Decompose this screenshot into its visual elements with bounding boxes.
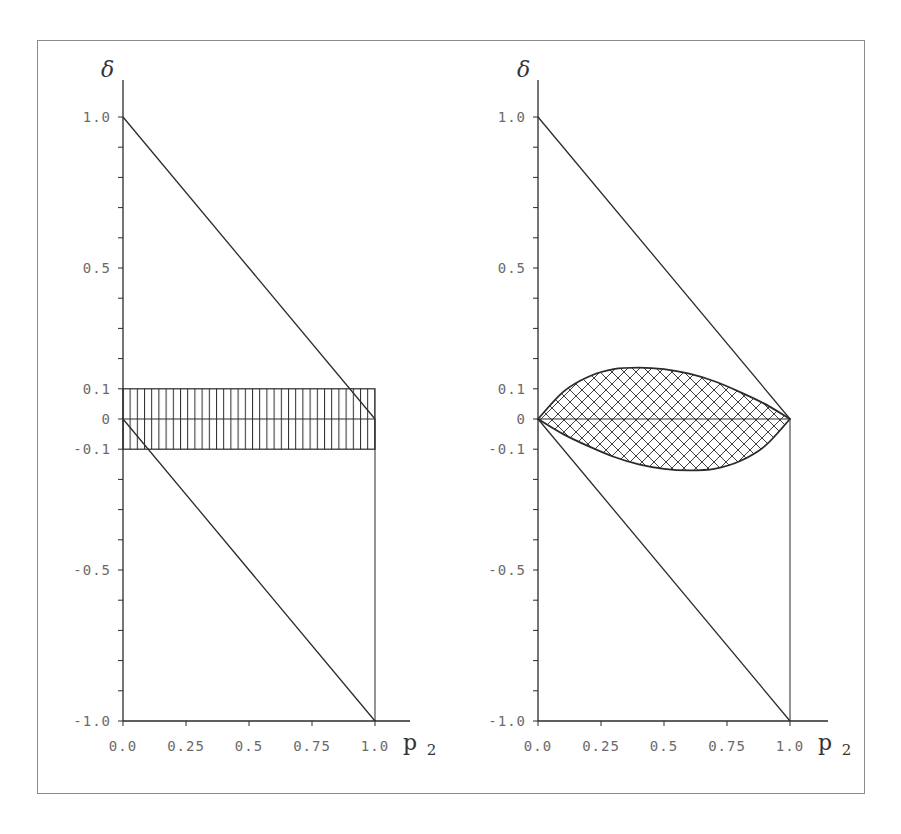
upper-bound-line [123, 117, 375, 419]
y-tick-label: 0 [517, 411, 526, 427]
y-ticks: 1.00.50.10-0.1-0.5-1.0 [488, 109, 538, 729]
x-axis-label-main: p [818, 730, 832, 755]
y-tick-label: -0.5 [488, 562, 526, 578]
y-ticks: 1.00.50.10-0.1-0.5-1.0 [73, 109, 123, 729]
x-tick-label: 0.5 [650, 738, 678, 754]
y-tick-label: 0.5 [498, 260, 526, 276]
x-tick-label: 0.75 [708, 738, 746, 754]
x-axis-label-subscript: 2 [842, 741, 852, 759]
x-tick-label: 0.0 [524, 738, 552, 754]
x-axis-label: p 2 [403, 730, 436, 759]
x-tick-label: 0.5 [235, 738, 263, 754]
right-panel: 1.00.50.10-0.1-0.5-1.0 0.00.250.50.751.0… [488, 57, 851, 759]
lower-bound-line [123, 419, 375, 721]
figure: 1.00.50.10-0.1-0.5-1.0 0.00.250.50.751.0… [0, 0, 901, 834]
y-tick-label: -1.0 [73, 713, 111, 729]
y-tick-label: 1.0 [498, 109, 526, 125]
y-tick-label: 0.1 [83, 381, 111, 397]
y-tick-label: 0.5 [83, 260, 111, 276]
y-tick-label: -0.1 [73, 441, 111, 457]
y-tick-label: 0 [102, 411, 111, 427]
x-axis-label: p 2 [818, 730, 851, 759]
y-tick-label: -1.0 [488, 713, 526, 729]
x-tick-label: 0.25 [582, 738, 620, 754]
x-axis-label-main: p [403, 730, 417, 755]
x-tick-label: 1.0 [361, 738, 389, 754]
y-tick-label: 1.0 [83, 109, 111, 125]
y-tick-label: 0.1 [498, 381, 526, 397]
x-axis-label-subscript: 2 [427, 741, 437, 759]
y-tick-label: -0.5 [73, 562, 111, 578]
x-tick-label: 0.0 [109, 738, 137, 754]
x-ticks: 0.00.250.50.751.0 [109, 721, 389, 754]
x-tick-label: 0.25 [167, 738, 205, 754]
y-axis-label: δ [517, 57, 530, 82]
y-tick-label: -0.1 [488, 441, 526, 457]
x-tick-label: 0.75 [293, 738, 331, 754]
y-axis-label: δ [101, 57, 114, 82]
left-panel: 1.00.50.10-0.1-0.5-1.0 0.00.250.50.751.0… [73, 57, 436, 759]
x-ticks: 0.00.250.50.751.0 [524, 721, 804, 754]
x-tick-label: 1.0 [776, 738, 804, 754]
